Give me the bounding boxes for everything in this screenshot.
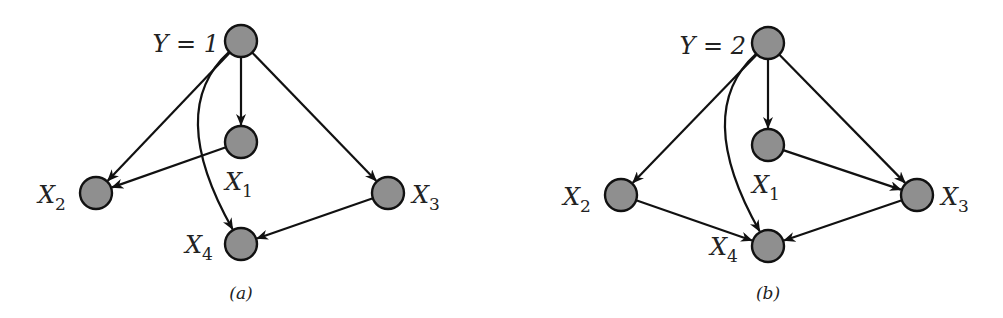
caption-b: (b) (756, 283, 780, 303)
node-y (752, 27, 784, 59)
node-label-x3: X3 (410, 181, 440, 214)
node-x2 (605, 179, 637, 211)
node-x2 (80, 177, 112, 209)
node-label-x2: X2 (36, 181, 66, 214)
panel-b-graph: Y = 2X1X2X3X4(b) (561, 27, 969, 303)
node-label-x2: X2 (561, 183, 591, 216)
edge-x1-to-x3 (783, 150, 901, 190)
edge-x3-to-x4 (257, 198, 373, 238)
node-x1 (225, 126, 257, 158)
node-x4 (225, 228, 257, 260)
node-label-x1: X1 (223, 168, 253, 201)
edge-x3-to-x4 (784, 200, 902, 240)
panel-a-graph: Y = 1X1X2X3X4(a) (36, 25, 440, 303)
node-label-x3: X3 (939, 183, 969, 216)
edge-y-to-x3 (779, 54, 905, 182)
node-label-x1: X1 (750, 171, 780, 204)
edge-x2-to-x4 (636, 200, 752, 240)
node-label-x4: X4 (708, 233, 738, 266)
node-x3 (901, 179, 933, 211)
node-label-y: Y = 1 (153, 30, 219, 58)
node-x3 (372, 177, 404, 209)
bayesian-network-figure: Y = 1X1X2X3X4(a) Y = 2X1X2X3X4(b) (0, 0, 1003, 318)
caption-a: (a) (229, 283, 252, 303)
node-x4 (752, 230, 784, 262)
edge-y-to-x3 (252, 53, 376, 181)
node-label-y: Y = 2 (680, 32, 746, 60)
node-y (225, 25, 257, 57)
node-label-x4: X4 (183, 231, 213, 264)
node-x1 (752, 129, 784, 161)
